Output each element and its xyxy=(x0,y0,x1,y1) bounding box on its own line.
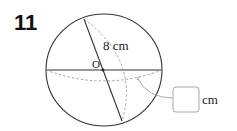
answer-unit: cm xyxy=(202,92,218,107)
leader-line xyxy=(138,79,173,98)
center-point xyxy=(102,69,105,72)
center-label: O xyxy=(92,58,100,70)
answer-box[interactable] xyxy=(173,87,199,112)
radius-label: 8 cm xyxy=(103,38,129,53)
sphere-diagram: O 8 cm cm xyxy=(0,0,237,131)
